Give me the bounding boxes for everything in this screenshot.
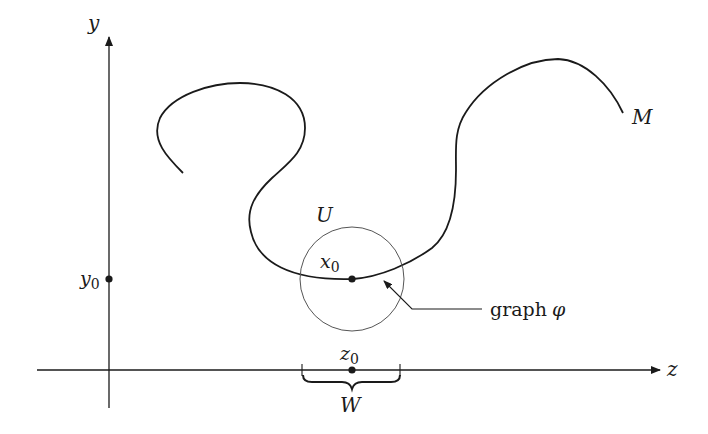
y0-label: y0 (79, 267, 100, 292)
graph-phi-label: graphφ (490, 298, 566, 320)
z0-point (348, 366, 355, 373)
interval-label: W (340, 393, 362, 417)
graph-pointer-arrow (384, 281, 482, 309)
x0-label: x0 (320, 250, 340, 275)
neighborhood-label: U (316, 203, 334, 227)
z0-label: z0 (339, 342, 359, 367)
manifold-label: M (631, 105, 653, 129)
w-brace (303, 375, 400, 389)
manifold-curve (157, 59, 623, 279)
y0-point (105, 275, 112, 282)
diagram-canvas: y z y0 M U x0 graphφ z0 W (0, 0, 708, 434)
x0-point (348, 275, 355, 282)
z-axis-label: z (666, 357, 678, 381)
y-axis-label: y (87, 11, 100, 35)
diagram-svg: y z y0 M U x0 graphφ z0 W (0, 0, 708, 434)
